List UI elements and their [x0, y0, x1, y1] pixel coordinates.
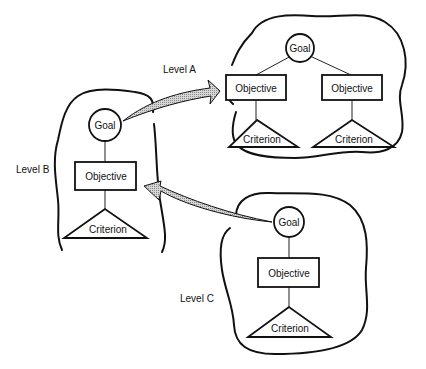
level-a-criterion-label-2: Criterion — [335, 134, 373, 145]
level-a-goal-label: Goal — [289, 43, 310, 54]
level-c-goal-label: Goal — [278, 217, 299, 228]
level-a-goal-node: Goal — [286, 34, 314, 62]
level-a-label: Level A — [163, 64, 196, 75]
level-b-cluster: Goal Objective Criterion — [55, 90, 165, 253]
level-a-objective-label-2: Objective — [331, 83, 373, 94]
level-a-criterion-node-1: Criterion — [229, 120, 298, 147]
hierarchy-diagram: Goal Objective Objective Criterion Crite… — [0, 0, 426, 369]
level-c-objective-label: Objective — [268, 268, 310, 279]
level-a-criterion-node-2: Criterion — [313, 120, 394, 147]
level-b-goal-label: Goal — [94, 120, 115, 131]
level-a-objective-label-1: Objective — [235, 83, 277, 94]
level-a-objective-node-2: Objective — [322, 75, 382, 100]
level-c-goal-node: Goal — [274, 207, 304, 237]
arrow-level-b-to-level-a — [123, 80, 220, 121]
level-b-objective-node: Objective — [75, 162, 136, 190]
level-c-criterion-label: Criterion — [271, 323, 309, 334]
level-a-objective-node-1: Objective — [226, 75, 286, 100]
level-b-criterion-node: Criterion — [64, 209, 147, 238]
level-c-objective-node: Objective — [258, 258, 319, 287]
level-b-label: Level B — [16, 164, 50, 175]
level-c-criterion-node: Criterion — [248, 307, 331, 337]
level-b-objective-label: Objective — [85, 171, 127, 182]
level-b-criterion-label: Criterion — [89, 224, 127, 235]
level-a-cluster: Goal Objective Objective Criterion Crite… — [226, 15, 406, 158]
level-c-label: Level C — [180, 293, 214, 304]
level-b-goal-node: Goal — [89, 109, 121, 141]
level-a-criterion-label-1: Criterion — [243, 134, 281, 145]
